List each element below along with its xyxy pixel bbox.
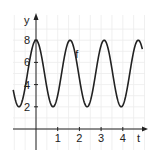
chart: 12342468 t y f	[0, 0, 153, 160]
x-tick-label: 1	[55, 132, 61, 144]
x-tick-label: 3	[98, 132, 104, 144]
x-tick-label: 2	[76, 132, 82, 144]
y-axis-label: y	[24, 14, 30, 26]
series-f-label: f	[75, 48, 79, 60]
x-axis-arrow	[142, 127, 148, 132]
y-axis-arrow	[34, 13, 39, 20]
x-tick-label: 4	[120, 132, 126, 144]
y-tick-label: 8	[24, 34, 30, 46]
y-tick-label: 2	[24, 101, 30, 113]
x-axis-label: t	[137, 132, 140, 144]
